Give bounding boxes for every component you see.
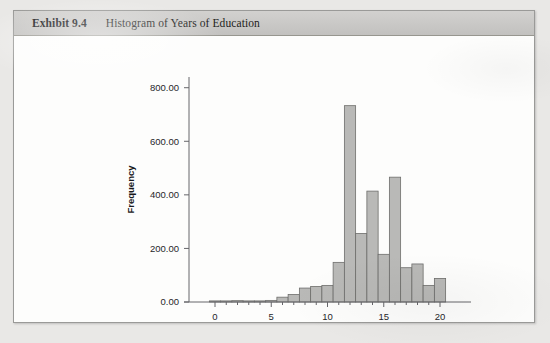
- histogram-bar: [378, 254, 389, 302]
- y-tick-label: 400.00: [150, 189, 179, 200]
- y-tick-label: 600.00: [150, 136, 179, 147]
- exhibit-number-label: Exhibit 9.4: [32, 17, 87, 29]
- histogram-bar: [401, 268, 412, 302]
- histogram-bar: [434, 278, 445, 302]
- x-tick-label: 10: [322, 311, 333, 322]
- histogram-bar: [311, 286, 322, 302]
- histogram-bar: [389, 177, 400, 302]
- x-axis: 05101520: [184, 302, 471, 322]
- y-tick-label: 0.00: [161, 296, 180, 307]
- y-tick-label: 200.00: [150, 243, 179, 254]
- y-axis-ticks: 0.00200.00400.00600.00800.00: [150, 82, 189, 307]
- exhibit-header: Exhibit 9.4 Histogram of Years of Educat…: [14, 11, 534, 36]
- histogram-bars: [209, 106, 445, 302]
- histogram-bar: [322, 285, 333, 302]
- histogram-bar: [299, 288, 310, 302]
- histogram-bar: [412, 264, 423, 302]
- histogram-bar: [367, 191, 378, 302]
- histogram-bar: [277, 297, 288, 302]
- chart-plot-area: 0.00200.00400.00600.00800.00 Frequency 0…: [14, 36, 534, 322]
- histogram-bar: [344, 106, 355, 302]
- x-axis-ticks: 05101520: [212, 302, 445, 322]
- histogram-bar: [288, 295, 299, 303]
- histogram-bar: [356, 233, 367, 302]
- x-tick-label: 0: [212, 311, 217, 322]
- histogram-bar: [333, 262, 344, 302]
- y-axis: 0.00200.00400.00600.00800.00 Frequency: [125, 77, 189, 307]
- y-axis-title: Frequency: [125, 165, 136, 214]
- histogram-bar: [423, 285, 434, 302]
- x-tick-label: 5: [269, 311, 274, 322]
- exhibit-title: Histogram of Years of Education: [106, 17, 260, 29]
- x-tick-label: 15: [378, 311, 389, 322]
- exhibit-card: Exhibit 9.4 Histogram of Years of Educat…: [13, 10, 535, 323]
- y-tick-label: 800.00: [150, 82, 179, 93]
- histogram-chart: 0.00200.00400.00600.00800.00 Frequency 0…: [14, 36, 536, 323]
- x-tick-label: 20: [435, 311, 446, 322]
